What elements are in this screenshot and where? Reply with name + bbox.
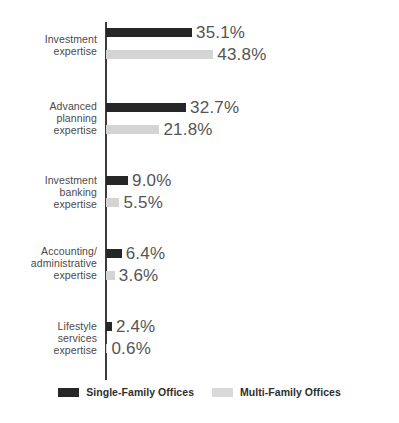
category-label: Accounting/ administrative expertise [7, 245, 97, 282]
bar-single-family[interactable] [106, 322, 112, 331]
bar-value-label: 0.6% [111, 339, 151, 359]
bar-multi-family[interactable] [106, 125, 159, 134]
legend-label: Single-Family Offices [86, 386, 194, 398]
category-label: Lifestyle services expertise [7, 320, 97, 357]
legend-swatch-icon [58, 388, 79, 397]
legend-swatch-icon [212, 388, 233, 397]
category-label: Investment banking expertise [7, 174, 97, 211]
bar-value-label: 43.8% [217, 45, 266, 65]
bar-single-family[interactable] [106, 176, 128, 185]
bar-value-label: 5.5% [123, 193, 163, 213]
bar-single-family[interactable] [106, 249, 122, 258]
category-label: Advanced planning expertise [7, 100, 97, 137]
bar-value-label: 35.1% [196, 23, 245, 43]
bar-value-label: 2.4% [116, 317, 156, 337]
bar-value-label: 9.0% [132, 171, 172, 191]
bar-single-family[interactable] [106, 28, 192, 37]
bar-value-label: 6.4% [126, 244, 166, 264]
bar-value-label: 21.8% [163, 120, 212, 140]
bar-single-family[interactable] [106, 103, 186, 112]
bar-value-label: 32.7% [190, 98, 239, 118]
bar-multi-family[interactable] [106, 344, 107, 353]
chart-legend: Single-Family Offices Multi-Family Offic… [0, 386, 399, 398]
bar-chart: Investment expertise35.1%43.8%Advanced p… [0, 0, 399, 423]
legend-label: Multi-Family Offices [240, 386, 341, 398]
legend-item-multi-family[interactable]: Multi-Family Offices [212, 386, 341, 398]
category-label: Investment expertise [7, 33, 97, 57]
bar-multi-family[interactable] [106, 198, 119, 207]
legend-item-single-family[interactable]: Single-Family Offices [58, 386, 194, 398]
bar-multi-family[interactable] [106, 50, 213, 59]
bar-groups: Investment expertise35.1%43.8%Advanced p… [0, 0, 399, 423]
bar-value-label: 3.6% [119, 266, 159, 286]
bar-multi-family[interactable] [106, 271, 115, 280]
